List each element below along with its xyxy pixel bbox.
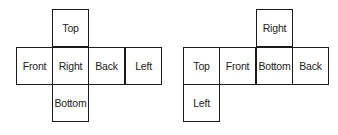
face-label: Right (59, 60, 83, 72)
face-label: Front (23, 60, 47, 72)
net1-face-bottom: Bottom (52, 84, 89, 122)
face-label: Top (193, 60, 209, 72)
net2-face-left: Left (183, 84, 220, 122)
face-label: Back (299, 60, 322, 72)
face-label: Front (226, 60, 250, 72)
net2-face-right: Right (256, 9, 293, 47)
face-label: Left (193, 97, 210, 109)
net2-face-bottom: Bottom (256, 47, 293, 85)
face-label: Left (135, 60, 152, 72)
face-label: Top (62, 22, 78, 34)
face-label: Bottom (54, 97, 86, 109)
net1-face-back: Back (88, 47, 125, 85)
net2-face-front: Front (219, 47, 256, 85)
net2-face-top: Top (183, 47, 220, 85)
face-label: Back (95, 60, 118, 72)
net1-face-left: Left (125, 47, 162, 85)
face-label: Bottom (258, 60, 290, 72)
net1-face-right: Right (52, 47, 89, 85)
net2-face-back: Back (292, 47, 329, 85)
net1-face-top: Top (52, 9, 89, 47)
cube-nets-figure: Top Front Right Back Left Bottom Right T… (0, 0, 338, 135)
net1-face-front: Front (16, 47, 53, 85)
face-label: Right (263, 22, 287, 34)
